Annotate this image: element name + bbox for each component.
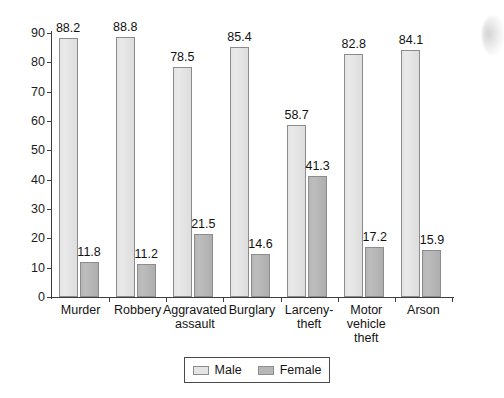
y-axis-tick-mark [47, 209, 52, 210]
bar-male-motor-vehicle-theft [344, 54, 363, 297]
legend-item-male[interactable]: Male [193, 364, 242, 377]
x-axis-category-label: Aggravated assault [163, 303, 227, 331]
bar-female-aggravated-assault [194, 234, 213, 297]
chart-legend: MaleFemale [184, 357, 330, 383]
x-axis-tick-mark [281, 297, 282, 302]
y-axis-tick-mark [47, 180, 52, 181]
bar-female-murder [80, 262, 99, 297]
bar-value-label: 88.2 [56, 22, 80, 35]
bar-male-larceny--theft [287, 125, 306, 297]
bar-value-label: 17.2 [363, 231, 387, 244]
x-axis-tick-mark [452, 297, 453, 302]
y-axis-tick-mark [47, 62, 52, 63]
x-axis-tick-mark [395, 297, 396, 302]
bar-value-label: 11.2 [135, 248, 158, 261]
x-axis-category-label: Burglary [229, 303, 276, 317]
bar-value-label: 88.8 [113, 21, 137, 34]
female-swatch [258, 366, 274, 375]
bar-female-arson [422, 250, 441, 297]
bar-value-label: 21.5 [191, 218, 215, 231]
x-axis-category-label: Arson [407, 303, 440, 317]
x-axis-tick-mark [166, 297, 167, 302]
y-axis-tick-mark [47, 297, 52, 298]
scan-shadow-artifact [482, 16, 504, 56]
legend-item-label: Female [280, 364, 322, 377]
bar-value-label: 58.7 [284, 109, 308, 122]
bar-female-robbery [137, 264, 156, 297]
x-axis-category-label: Motor vehicle theft [347, 303, 386, 345]
y-axis-tick-mark [47, 238, 52, 239]
bar-male-murder [59, 38, 78, 297]
x-axis-tick-mark [338, 297, 339, 302]
x-axis-tick-mark [109, 297, 110, 302]
x-axis-category-label: Murder [61, 303, 101, 317]
male-swatch [193, 366, 209, 375]
y-axis-tick-mark [47, 121, 52, 122]
bar-female-larceny--theft [308, 176, 327, 297]
legend-item-label: Male [215, 364, 242, 377]
y-axis-tick-mark [47, 268, 52, 269]
bar-male-aggravated-assault [173, 67, 192, 297]
bar-value-label: 15.9 [420, 234, 444, 247]
bar-male-burglary [230, 47, 249, 298]
plot-area: 010203040506070809088.211.888.811.278.52… [52, 33, 452, 297]
y-axis-tick-mark [47, 92, 52, 93]
y-axis-tick-mark [47, 33, 52, 34]
legend-item-female[interactable]: Female [258, 364, 322, 377]
bar-value-label: 78.5 [170, 51, 194, 64]
bar-value-label: 82.8 [342, 38, 366, 51]
x-axis-tick-mark [223, 297, 224, 302]
bar-value-label: 41.3 [305, 160, 329, 173]
bar-female-motor-vehicle-theft [365, 247, 384, 297]
bar-male-arson [401, 50, 420, 297]
bar-male-robbery [116, 37, 135, 297]
bar-female-burglary [251, 254, 270, 297]
bar-value-label: 84.1 [399, 34, 423, 47]
bar-value-label: 11.8 [77, 246, 100, 259]
x-axis-category-label: Larceny- theft [285, 303, 334, 331]
bar-value-label: 14.6 [248, 238, 272, 251]
y-axis-tick-mark [47, 150, 52, 151]
x-axis-line [51, 297, 454, 298]
bar-value-label: 85.4 [227, 31, 251, 44]
x-axis-category-label: Robbery [114, 303, 161, 317]
